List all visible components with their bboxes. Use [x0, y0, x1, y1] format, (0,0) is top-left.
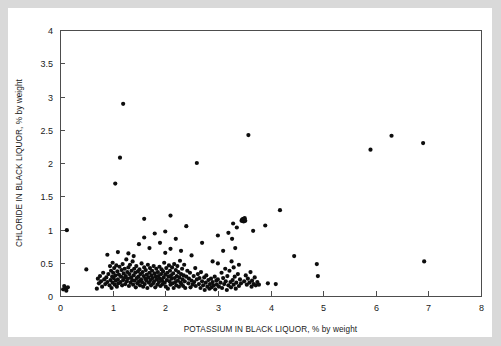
data-point [142, 217, 146, 221]
data-point [248, 270, 252, 274]
data-point [226, 231, 230, 235]
data-point [66, 285, 70, 289]
data-point [227, 269, 231, 273]
data-point [219, 271, 223, 275]
data-point [168, 213, 172, 217]
data-point [266, 281, 270, 285]
data-point [137, 242, 141, 246]
data-point [225, 288, 229, 292]
data-point [237, 263, 241, 267]
data-point [421, 141, 425, 145]
data-point [111, 261, 115, 265]
data-point [182, 263, 186, 267]
data-point [235, 225, 239, 229]
data-point [188, 271, 192, 275]
data-point [220, 286, 224, 290]
data-point [216, 277, 220, 281]
figure-canvas: 01234567800.511.522.533.54POTASSIUM IN B… [8, 8, 492, 337]
data-point [174, 237, 178, 241]
x-tick-label: 4 [269, 303, 274, 313]
data-point [163, 229, 167, 233]
data-point [183, 279, 187, 283]
data-point [158, 241, 162, 245]
y-tick-label: 3 [48, 93, 53, 103]
data-point [134, 264, 138, 268]
x-tick-label: 6 [374, 303, 379, 313]
data-point [263, 223, 267, 227]
data-point [251, 229, 255, 233]
data-point [232, 265, 236, 269]
data-point [316, 274, 320, 278]
data-point [123, 267, 127, 271]
scatter-plot: 01234567800.511.522.533.54POTASSIUM IN B… [8, 8, 492, 337]
data-point [113, 273, 117, 277]
data-point [121, 102, 125, 106]
data-point [184, 224, 188, 228]
data-point [229, 259, 233, 263]
data-point [242, 279, 246, 283]
y-tick-label: 1.5 [40, 192, 53, 202]
data-point [246, 133, 250, 137]
y-tick-label: 1 [48, 226, 53, 236]
data-point [221, 276, 225, 280]
data-point [200, 241, 204, 245]
data-point [203, 288, 207, 292]
data-point [134, 285, 138, 289]
data-point [98, 274, 102, 278]
data-point [213, 287, 217, 291]
data-point [175, 264, 179, 268]
x-tick-label: 1 [111, 303, 116, 313]
data-point [142, 235, 146, 239]
data-point [95, 287, 99, 291]
y-tick-label: 0.5 [40, 259, 53, 269]
y-tick-label: 2.5 [40, 126, 53, 136]
x-tick-label: 8 [479, 303, 484, 313]
data-point [221, 249, 225, 253]
data-point [292, 254, 296, 258]
data-point [216, 261, 220, 265]
data-point [106, 272, 110, 276]
data-point [315, 262, 319, 266]
x-tick-label: 3 [216, 303, 221, 313]
data-point [166, 287, 170, 291]
data-point [118, 156, 122, 160]
data-point [422, 259, 426, 263]
y-tick-label: 2 [48, 159, 53, 169]
x-tick-label: 2 [163, 303, 168, 313]
data-point [124, 257, 128, 261]
data-point [389, 134, 393, 138]
data-point [108, 264, 112, 268]
figure-frame: 01234567800.511.522.533.54POTASSIUM IN B… [0, 0, 501, 346]
data-point [204, 273, 208, 277]
data-point [231, 221, 235, 225]
data-point [368, 148, 372, 152]
data-point [113, 182, 117, 186]
y-axis-title: CHLORIDE IN BLACK LIQUOR, % by weight [15, 78, 24, 247]
data-point [101, 271, 105, 275]
y-tick-label: 0 [48, 292, 53, 302]
data-point [192, 274, 196, 278]
y-tick-label: 3.5 [40, 59, 53, 69]
data-point [211, 259, 215, 263]
data-point [171, 271, 175, 275]
data-point [199, 270, 203, 274]
data-point [121, 262, 125, 266]
data-point [197, 276, 201, 280]
data-point [131, 259, 135, 263]
data-point [147, 246, 151, 250]
data-point [153, 231, 157, 235]
data-point [162, 261, 166, 265]
data-point [180, 267, 184, 271]
x-axis-title: POTASSIUM IN BLACK LIQUOR, % by weight [184, 325, 358, 334]
x-tick-label: 7 [426, 303, 431, 313]
data-point [230, 237, 234, 241]
data-point [183, 286, 187, 290]
data-point [193, 266, 197, 270]
data-point [274, 282, 278, 286]
data-point [163, 251, 167, 255]
data-point [278, 208, 282, 212]
data-point [243, 219, 247, 223]
data-point [168, 247, 172, 251]
data-point [179, 249, 183, 253]
data-point [144, 268, 148, 272]
